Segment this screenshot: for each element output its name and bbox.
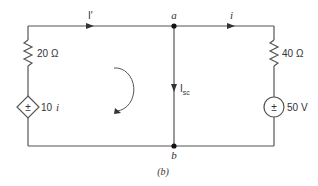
voltage-source-sign: ± [271,102,277,113]
resistor-40-ohm-icon [270,40,278,66]
isc-arrow-icon [171,84,177,92]
dependent-source-sign: ± [25,102,31,113]
right-branch: ± [264,26,284,146]
i-label: i [230,9,233,21]
left-branch: ± [17,26,39,146]
i-arrow-icon [227,23,235,29]
node-a-dot [171,23,176,28]
resistor-20-ohm-label: 20 Ω [37,48,59,59]
clockwise-loop-arrow-icon [114,68,134,114]
resistor-40-ohm-label: 40 Ω [282,48,304,59]
node-a-label: a [171,9,177,21]
node-b-label: b [171,149,177,161]
voltage-source-label: 50 V [287,102,308,113]
figure-caption: (b) [157,166,169,178]
node-b-dot [171,143,176,148]
middle-branch-short-circuit [171,26,177,146]
isc-label: Isc [180,83,190,96]
resistor-20-ohm-icon [24,40,32,66]
i-prime-label: I′ [88,10,93,21]
i-prime-arrow-icon [86,23,94,29]
dependent-source-label: 10 i [41,101,59,113]
circuit-diagram: ± 20 Ω 10 i Isc ± 40 Ω 50 V I′ i a b (b) [0,0,318,186]
